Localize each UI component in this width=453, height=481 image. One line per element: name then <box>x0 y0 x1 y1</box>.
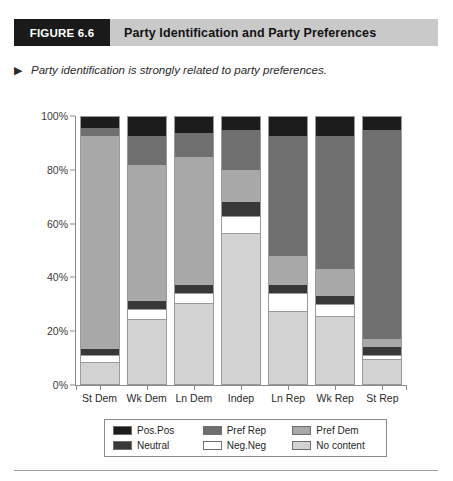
bar-segment-pref_dem <box>175 157 213 285</box>
x-axis-tick-mark <box>406 385 407 390</box>
figure-header-banner: FIGURE 6.6 Party Identification and Part… <box>14 19 438 46</box>
legend-label: Pos.Pos <box>137 425 174 436</box>
bar-segment-neutral <box>222 202 260 215</box>
legend-label: Pref Dem <box>316 425 358 436</box>
bar-segment-no_content <box>128 320 166 384</box>
legend-swatch-pref-dem <box>292 426 311 435</box>
legend-item-pref-dem[interactable]: Pref Dem <box>292 424 378 437</box>
bar-indep[interactable] <box>221 116 261 385</box>
bar-segment-pref_rep <box>128 136 166 165</box>
x-axis-tick-mark <box>382 385 383 390</box>
x-axis-tick-mark <box>100 385 101 390</box>
bar-segment-pref_dem <box>81 136 119 350</box>
bar-segment-neg_neg <box>175 293 213 304</box>
bar-segment-neutral <box>363 347 401 355</box>
legend-swatch-pos-pos <box>113 426 132 435</box>
bar-st-rep[interactable] <box>362 116 402 385</box>
bar-segment-pos_pos <box>128 117 166 136</box>
bar-segment-no_content <box>363 360 401 384</box>
bar-segment-pos_pos <box>175 117 213 133</box>
y-axis-tick-mark <box>70 169 75 170</box>
bar-segment-neg_neg <box>316 304 354 317</box>
figure-number-tag: FIGURE 6.6 <box>14 19 110 46</box>
bar-segment-pref_dem <box>316 269 354 296</box>
footer-divider <box>14 470 438 471</box>
bar-segment-pref_dem <box>128 165 166 301</box>
bar-segment-pref_rep <box>269 136 307 256</box>
figure-caption: ▶ Party identification is strongly relat… <box>14 60 438 80</box>
bar-ln-dem[interactable] <box>174 116 214 385</box>
bar-segment-pos_pos <box>81 117 119 128</box>
bar-segment-neutral <box>269 285 307 293</box>
y-axis-tick-mark <box>70 385 75 386</box>
x-axis-label-st-dem: St Dem <box>82 392 117 404</box>
bar-segment-neutral <box>128 301 166 309</box>
bar-segment-neg_neg <box>128 309 166 320</box>
bar-segment-no_content <box>316 317 354 384</box>
bar-segment-neg_neg <box>269 293 307 312</box>
bar-segment-pref_rep <box>316 136 354 270</box>
bar-segment-pref_rep <box>363 130 401 338</box>
plot-area <box>76 116 406 385</box>
y-axis-tick-label: 60% <box>0 218 75 230</box>
x-axis-label-st-rep: St Rep <box>366 392 398 404</box>
legend-swatch-no-content <box>292 441 311 450</box>
caption-text: Party identification is strongly related… <box>31 64 327 76</box>
bar-segment-neutral <box>316 296 354 304</box>
x-axis-tick-mark <box>288 385 289 390</box>
bar-segment-pref_dem <box>269 256 307 285</box>
legend-label: Neutral <box>137 440 169 451</box>
legend-label: Pref Rep <box>227 425 266 436</box>
page-title: Party Identification and Party Preferenc… <box>110 19 438 46</box>
x-axis-tick-mark <box>194 385 195 390</box>
bar-st-dem[interactable] <box>80 116 120 385</box>
bar-ln-rep[interactable] <box>268 116 308 385</box>
y-axis-tick-mark <box>70 116 75 117</box>
bar-segment-pref_rep <box>175 133 213 157</box>
legend-item-pref-rep[interactable]: Pref Rep <box>203 424 289 437</box>
chart-container: 0%20%40%60%80%100% St DemWk DemLn DemInd… <box>0 100 453 415</box>
bar-segment-neg_neg <box>222 216 260 235</box>
bar-segment-neutral <box>175 285 213 293</box>
legend-label: No content <box>316 440 364 451</box>
y-axis-tick-mark <box>70 277 75 278</box>
legend-label: Neg.Neg <box>227 440 266 451</box>
legend-item-no-content[interactable]: No content <box>292 439 378 452</box>
x-axis-label-wk-rep: Wk Rep <box>317 392 354 404</box>
legend-swatch-neg-neg <box>203 441 222 450</box>
bar-segment-no_content <box>222 234 260 384</box>
bar-wk-rep[interactable] <box>315 116 355 385</box>
x-axis-label-ln-rep: Ln Rep <box>271 392 305 404</box>
legend-item-neg-neg[interactable]: Neg.Neg <box>203 439 289 452</box>
bar-segment-pref_dem <box>363 339 401 347</box>
bar-wk-dem[interactable] <box>127 116 167 385</box>
x-axis-tick-mark <box>76 385 77 390</box>
bar-segment-no_content <box>81 363 119 384</box>
y-axis-tick-label: 100% <box>0 110 75 122</box>
y-axis-tick-mark <box>70 223 75 224</box>
bar-segment-pref_rep <box>222 130 260 170</box>
legend-swatch-pref-rep <box>203 426 222 435</box>
y-axis-tick-label: 20% <box>0 325 75 337</box>
bar-segment-pref_dem <box>222 170 260 202</box>
legend-item-pos-pos[interactable]: Pos.Pos <box>113 424 199 437</box>
bar-segment-pref_rep <box>81 128 119 136</box>
x-axis-tick-mark <box>241 385 242 390</box>
bar-segment-no_content <box>175 304 213 384</box>
bar-segment-pos_pos <box>316 117 354 136</box>
legend-swatch-neutral <box>113 441 132 450</box>
y-axis-tick-label: 40% <box>0 271 75 283</box>
chart-legend: Pos.PosPref RepPref DemNeutralNeg.NegNo … <box>104 419 387 457</box>
bar-segment-pos_pos <box>269 117 307 136</box>
x-axis-tick-mark <box>147 385 148 390</box>
x-axis-label-indep: Indep <box>228 392 254 404</box>
x-axis-tick-mark <box>335 385 336 390</box>
bar-segment-neg_neg <box>81 355 119 363</box>
x-axis-label-wk-dem: Wk Dem <box>127 392 167 404</box>
x-axis-label-ln-dem: Ln Dem <box>175 392 212 404</box>
legend-item-neutral[interactable]: Neutral <box>113 439 199 452</box>
bar-segment-pos_pos <box>222 117 260 130</box>
triangle-right-icon: ▶ <box>14 64 28 76</box>
y-axis-tick-label: 80% <box>0 164 75 176</box>
y-axis-tick-label: 0% <box>0 379 75 391</box>
